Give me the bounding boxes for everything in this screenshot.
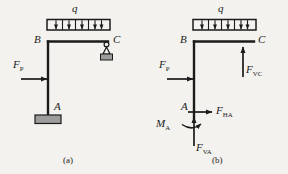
label-b-a: B [34,34,41,45]
label-fvc: FVC [246,64,262,78]
label-fp-a-sub: P [20,65,24,72]
label-fva-base: F [196,141,203,153]
label-c-a: C [113,34,120,45]
label-q-a: q [72,3,78,14]
distributed-load-box-b [193,20,256,31]
label-fp-b: FP [159,59,170,73]
support-base-block-c-a [101,54,113,60]
label-ma: MA [156,118,170,132]
label-fp-b-sub: P [166,65,170,72]
support-triangle-a [103,47,110,54]
label-ma-sub: A [165,124,170,131]
label-fp-b-base: F [159,58,166,70]
label-fva-sub: VA [203,148,212,155]
fixed-support-a [35,115,61,124]
label-fha-base: F [216,104,223,116]
label-fvc-base: F [246,63,253,75]
label-fp-a-base: F [13,58,20,70]
distributed-load-box-a [47,20,110,31]
label-q-b: q [218,3,224,14]
roller-support-c-a [101,42,113,60]
label-fp-a: FP [13,59,24,73]
label-a-b: A [181,101,188,112]
label-fha-sub: HA [223,111,233,118]
caption-b: (b) [212,155,223,165]
label-fva: FVA [196,142,212,156]
label-a-a: A [54,101,61,112]
label-fvc-sub: VC [253,70,262,77]
label-fha: FHA [216,105,233,119]
structural-frame-figure [0,0,288,174]
fixed-base-block-a [35,115,61,124]
moment-a-arrow [182,124,201,128]
label-b-b: B [180,34,187,45]
caption-a: (a) [63,155,73,165]
moment-a-curve [182,124,201,128]
label-c-b: C [258,34,265,45]
label-ma-base: M [156,117,165,129]
